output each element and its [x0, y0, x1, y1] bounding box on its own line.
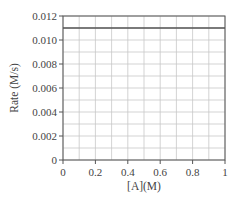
x-tick-label: 0.8	[186, 166, 200, 178]
x-tick-label: 0.4	[121, 166, 135, 178]
y-tick-label: 0.010	[32, 34, 57, 46]
y-axis-label: Rate (M/s)	[8, 63, 21, 113]
y-tick-label: 0	[52, 154, 58, 166]
y-tick-label: 0.002	[32, 130, 57, 142]
x-tick-label: 0.2	[89, 166, 103, 178]
y-tick-labels: 00.0020.0040.0060.0080.0100.012	[32, 10, 57, 166]
grid	[63, 16, 225, 160]
x-tick-label: 0.6	[153, 166, 167, 178]
x-axis-label: [A](M)	[127, 180, 161, 193]
x-tick-label: 0	[60, 166, 66, 178]
rate-vs-concentration-chart: 00.0020.0040.0060.0080.0100.012 00.20.40…	[0, 0, 243, 214]
x-tick-label: 1	[222, 166, 228, 178]
y-tick-label: 0.004	[32, 106, 57, 118]
y-tick-label: 0.008	[32, 58, 57, 70]
axes	[59, 16, 225, 164]
x-tick-labels: 00.20.40.60.81	[60, 166, 228, 178]
y-tick-label: 0.012	[32, 10, 57, 22]
y-tick-label: 0.006	[32, 82, 57, 94]
